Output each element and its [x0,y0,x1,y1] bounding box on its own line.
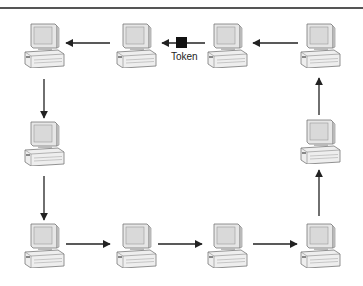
token-label: Token [171,51,198,62]
token-square-icon [176,37,187,48]
